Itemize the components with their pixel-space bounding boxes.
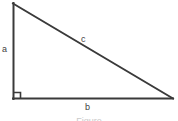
triangle-side-label-c: c xyxy=(81,35,86,44)
figure-container: a c b Figure xyxy=(0,0,178,121)
figure-caption: Figure xyxy=(0,117,178,121)
triangle-hypotenuse-c-line xyxy=(13,4,173,99)
triangle-side-label-b: b xyxy=(85,103,90,112)
triangle-side-label-a: a xyxy=(2,45,7,54)
